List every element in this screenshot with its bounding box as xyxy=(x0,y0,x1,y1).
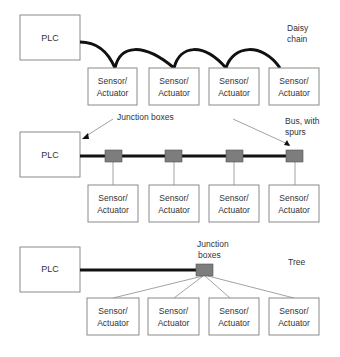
svg-text:Actuator: Actuator xyxy=(278,205,310,215)
network-topologies-diagram: PLC Sensor/ Actuator Sensor/ Actuator Se… xyxy=(0,0,340,357)
arrowhead-left-icon xyxy=(82,133,89,139)
daisy-chain-cable xyxy=(80,42,280,68)
svg-text:Actuator: Actuator xyxy=(97,318,129,328)
device-daisy-3: Sensor/ Actuator xyxy=(209,68,259,105)
svg-text:Sensor/: Sensor/ xyxy=(159,76,189,86)
tree-junction-annotation-2: boxes xyxy=(198,250,221,260)
junction-box-4 xyxy=(286,150,303,162)
svg-text:Sensor/: Sensor/ xyxy=(98,193,128,203)
tree-section: Junction boxes Tree PLC Sensor/ Actuator… xyxy=(20,239,319,335)
svg-text:Sensor/: Sensor/ xyxy=(98,76,128,86)
tree-label: Tree xyxy=(288,257,305,267)
junction-boxes-annotation: Junction boxes xyxy=(117,112,174,122)
svg-text:Actuator: Actuator xyxy=(278,88,310,98)
svg-text:Actuator: Actuator xyxy=(218,205,250,215)
device-tree-1: Sensor/ Actuator xyxy=(87,298,139,335)
junction-box-3 xyxy=(226,150,243,162)
svg-text:Sensor/: Sensor/ xyxy=(279,76,309,86)
svg-text:Actuator: Actuator xyxy=(97,205,129,215)
daisy-chain-label-2: chain xyxy=(287,34,308,44)
device-tree-2: Sensor/ Actuator xyxy=(148,298,199,335)
device-tree-4: Sensor/ Actuator xyxy=(269,298,319,335)
device-bus-4: Sensor/ Actuator xyxy=(269,185,319,222)
device-daisy-4: Sensor/ Actuator xyxy=(269,68,319,105)
tree-junction-annotation-1: Junction xyxy=(197,239,229,249)
svg-text:Actuator: Actuator xyxy=(218,88,250,98)
svg-text:Sensor/: Sensor/ xyxy=(98,306,128,316)
device-tree-3: Sensor/ Actuator xyxy=(209,298,259,335)
svg-text:Sensor/: Sensor/ xyxy=(219,193,249,203)
svg-text:Actuator: Actuator xyxy=(158,205,190,215)
svg-text:Sensor/: Sensor/ xyxy=(279,306,309,316)
device-daisy-1: Sensor/ Actuator xyxy=(88,68,137,105)
svg-text:Sensor/: Sensor/ xyxy=(219,306,249,316)
bus-label-2: spurs xyxy=(285,127,306,137)
svg-text:Sensor/: Sensor/ xyxy=(279,193,309,203)
bus-label-1: Bus, with xyxy=(285,116,320,126)
plc-label-tree: PLC xyxy=(41,264,59,274)
junction-box-1 xyxy=(105,150,122,162)
svg-text:Sensor/: Sensor/ xyxy=(159,193,189,203)
svg-text:Actuator: Actuator xyxy=(278,318,310,328)
annotation-leader-left xyxy=(86,119,113,136)
daisy-chain-label-1: Daisy xyxy=(287,23,309,33)
device-bus-2: Sensor/ Actuator xyxy=(149,185,199,222)
svg-text:Sensor/: Sensor/ xyxy=(219,76,249,86)
svg-text:Actuator: Actuator xyxy=(158,318,190,328)
device-daisy-2: Sensor/ Actuator xyxy=(149,68,199,105)
annotation-leader-right xyxy=(233,119,290,145)
plc-label-bus: PLC xyxy=(41,150,59,160)
tree-junction-box xyxy=(196,264,213,276)
plc-label-daisy: PLC xyxy=(41,33,59,43)
device-bus-1: Sensor/ Actuator xyxy=(88,185,138,222)
junction-box-2 xyxy=(165,150,182,162)
bus-section: Junction boxes Bus, with spurs PLC Senso… xyxy=(20,112,320,222)
svg-text:Actuator: Actuator xyxy=(97,88,129,98)
svg-text:Sensor/: Sensor/ xyxy=(159,306,189,316)
svg-text:Actuator: Actuator xyxy=(218,318,250,328)
svg-text:Actuator: Actuator xyxy=(158,88,190,98)
daisy-chain-section: PLC Sensor/ Actuator Sensor/ Actuator Se… xyxy=(20,15,319,105)
device-bus-3: Sensor/ Actuator xyxy=(209,185,259,222)
